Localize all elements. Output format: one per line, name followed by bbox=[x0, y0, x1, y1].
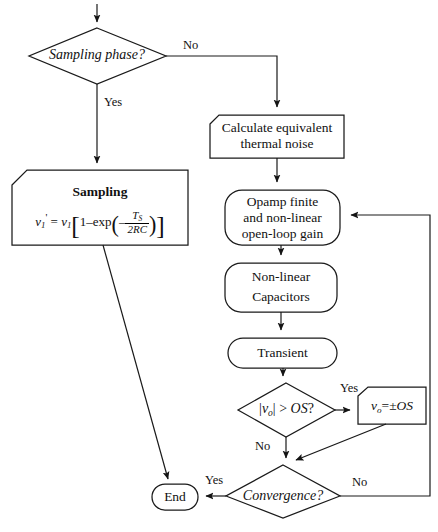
node-opamp-line1: Opamp finite bbox=[225, 194, 340, 209]
node-nonlinear-caps-line2: Capacitors bbox=[225, 289, 337, 304]
formula-equals: = bbox=[51, 214, 58, 229]
edge-label-convergence-yes: Yes bbox=[205, 473, 223, 487]
formula-lhs-prime: ' bbox=[45, 212, 47, 223]
edge-convergence-no-feedback bbox=[340, 215, 430, 496]
flowchart-shapes-and-connectors bbox=[0, 0, 438, 532]
formula-bracket-open: [ bbox=[71, 211, 79, 239]
overshoot-question: ? bbox=[308, 401, 314, 416]
formula-paren-open: ( bbox=[112, 212, 119, 237]
overshoot-os: OS bbox=[291, 401, 308, 416]
node-sampling-phase-label: Sampling phase? bbox=[29, 47, 165, 63]
node-sampling-box-formula: v1' = v1[1–exp(–TS2RC)] bbox=[12, 210, 188, 240]
edge-sampling-phase-no bbox=[166, 56, 277, 107]
formula-fraction: TS2RC bbox=[125, 210, 149, 236]
formula-bracket-close: ] bbox=[156, 211, 164, 239]
clamp-equals: =± bbox=[382, 398, 397, 413]
overshoot-bar-close: | bbox=[273, 401, 276, 416]
node-transient-label: Transient bbox=[228, 345, 337, 360]
flowchart-canvas: Sampling phase? Calculate equivalent the… bbox=[0, 0, 438, 532]
node-overshoot-test-label: |vo| > OS? bbox=[238, 401, 335, 419]
edge-sampling-box-to-end bbox=[103, 245, 168, 479]
node-clamp-label: vo=±OS bbox=[358, 398, 426, 415]
node-calculate-noise-line2: thermal noise bbox=[210, 136, 344, 151]
edge-label-sampling-yes: Yes bbox=[104, 95, 122, 109]
node-calculate-noise-line1: Calculate equivalent bbox=[210, 120, 344, 135]
edge-clamp-to-convergence bbox=[296, 424, 386, 460]
edge-label-overshoot-yes: Yes bbox=[340, 381, 358, 395]
edge-label-sampling-no: No bbox=[183, 38, 198, 52]
node-nonlinear-caps-line1: Non-linear bbox=[225, 269, 337, 284]
node-convergence-label: Convergence? bbox=[226, 488, 340, 504]
formula-den: 2RC bbox=[125, 223, 149, 236]
edge-label-convergence-no: No bbox=[352, 475, 367, 489]
edge-label-overshoot-no: No bbox=[255, 439, 270, 453]
overshoot-gt: > bbox=[279, 401, 287, 416]
formula-exp: exp bbox=[93, 214, 112, 229]
clamp-os: OS bbox=[397, 398, 414, 413]
node-sampling-box-title: Sampling bbox=[12, 184, 188, 199]
formula-num-sub: S bbox=[138, 214, 142, 223]
node-end-label: End bbox=[152, 489, 198, 504]
node-opamp-line2: and non-linear bbox=[225, 210, 340, 225]
node-opamp-line3: open-loop gain bbox=[225, 226, 340, 241]
